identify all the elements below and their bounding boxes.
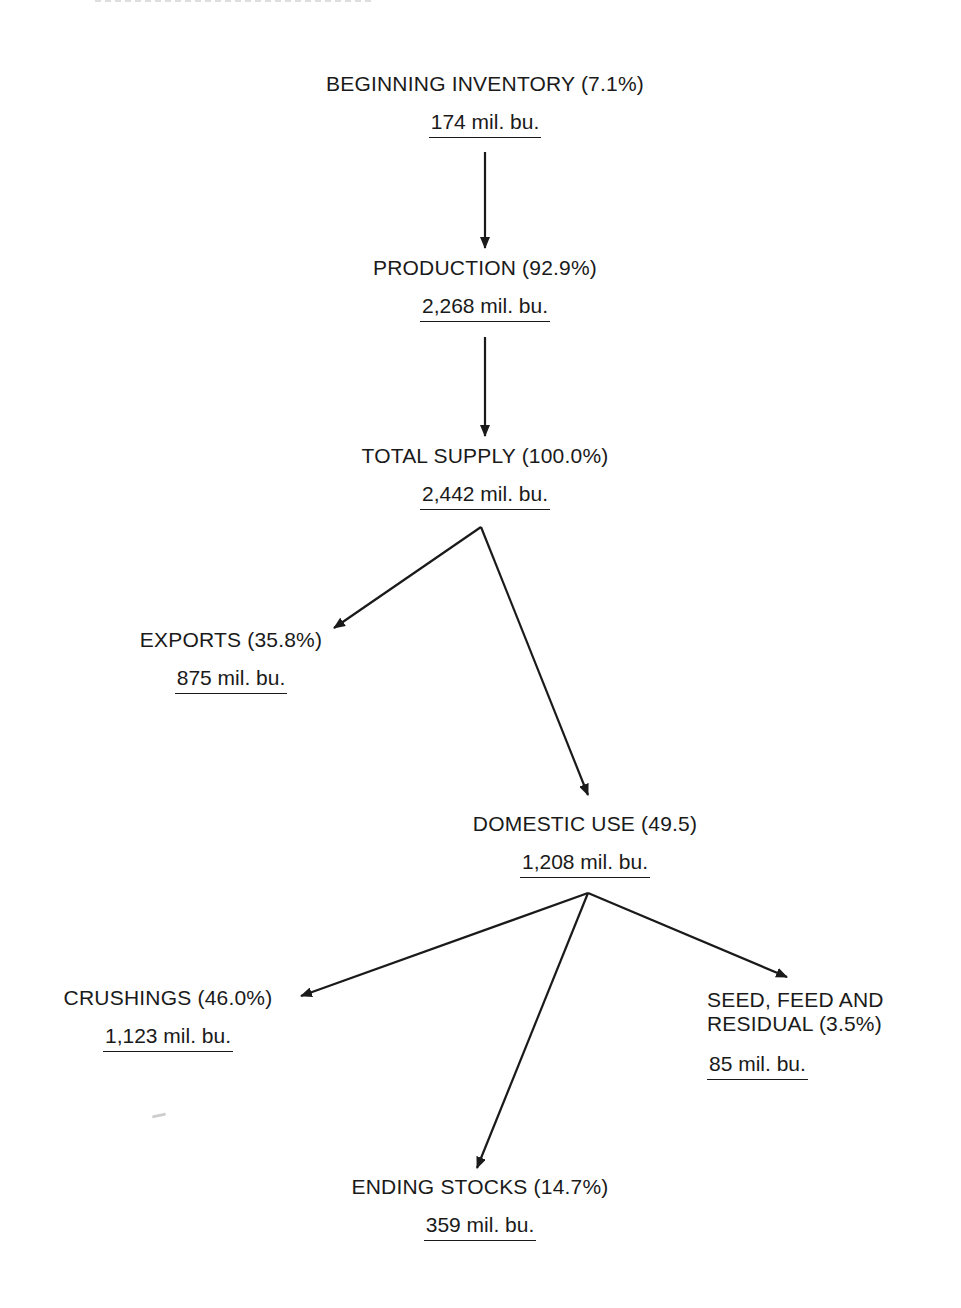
node-label-line2: RESIDUAL (3.5%) bbox=[707, 1012, 947, 1036]
arrow-domestic-to-crushings bbox=[301, 893, 588, 996]
node-label-line1: SEED, FEED AND bbox=[707, 988, 947, 1012]
node-label: TOTAL SUPPLY (100.0%) bbox=[320, 444, 650, 468]
node-value: 1,208 mil. bu. bbox=[520, 850, 650, 878]
node-label: PRODUCTION (92.9%) bbox=[320, 256, 650, 280]
node-crushings: CRUSHINGS (46.0%) 1,123 mil. bu. bbox=[38, 986, 298, 1052]
node-label: CRUSHINGS (46.0%) bbox=[38, 986, 298, 1010]
arrow-supply-to-exports bbox=[334, 527, 481, 628]
node-value: 85 mil. bu. bbox=[707, 1052, 808, 1080]
node-ending-stocks: ENDING STOCKS (14.7%) 359 mil. bu. bbox=[310, 1175, 650, 1241]
node-value: 1,123 mil. bu. bbox=[103, 1024, 233, 1052]
node-value: 875 mil. bu. bbox=[175, 666, 288, 694]
node-label: BEGINNING INVENTORY (7.1%) bbox=[290, 72, 680, 96]
node-label: EXPORTS (35.8%) bbox=[106, 628, 356, 652]
node-value: 359 mil. bu. bbox=[424, 1213, 537, 1241]
node-domestic-use: DOMESTIC USE (49.5) 1,208 mil. bu. bbox=[450, 812, 720, 878]
node-label: DOMESTIC USE (49.5) bbox=[450, 812, 720, 836]
node-value: 2,268 mil. bu. bbox=[420, 294, 550, 322]
node-value: 2,442 mil. bu. bbox=[420, 482, 550, 510]
node-label: ENDING STOCKS (14.7%) bbox=[310, 1175, 650, 1199]
node-beginning-inventory: BEGINNING INVENTORY (7.1%) 174 mil. bu. bbox=[290, 72, 680, 138]
node-exports: EXPORTS (35.8%) 875 mil. bu. bbox=[106, 628, 356, 694]
arrow-domestic-to-ending-stocks bbox=[477, 893, 588, 1168]
node-total-supply: TOTAL SUPPLY (100.0%) 2,442 mil. bu. bbox=[320, 444, 650, 510]
arrow-domestic-to-seed-feed bbox=[588, 893, 787, 977]
node-production: PRODUCTION (92.9%) 2,268 mil. bu. bbox=[320, 256, 650, 322]
node-value: 174 mil. bu. bbox=[429, 110, 542, 138]
arrow-supply-to-domestic bbox=[481, 527, 588, 795]
node-seed-feed-residual: SEED, FEED AND RESIDUAL (3.5%) 85 mil. b… bbox=[707, 988, 947, 1080]
